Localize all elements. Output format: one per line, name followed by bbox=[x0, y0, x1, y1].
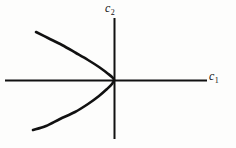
x-axis-label: c1 bbox=[209, 70, 218, 82]
y-axis-label-base: c bbox=[105, 1, 110, 15]
y-axis-label-subscript: 2 bbox=[111, 8, 115, 17]
x-axis-label-base: c bbox=[209, 69, 214, 83]
parabola-figure: c1 c2 bbox=[0, 0, 236, 148]
y-axis-label: c2 bbox=[105, 2, 114, 14]
x-axis-label-subscript: 1 bbox=[215, 76, 219, 85]
plot-canvas bbox=[0, 0, 236, 148]
